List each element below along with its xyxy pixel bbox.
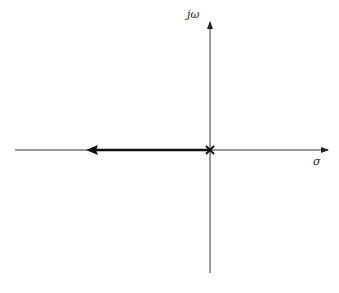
imaginary-axis-label: jω <box>187 8 199 21</box>
real-axis-label: σ <box>313 155 321 168</box>
root-locus-plot <box>0 0 339 293</box>
